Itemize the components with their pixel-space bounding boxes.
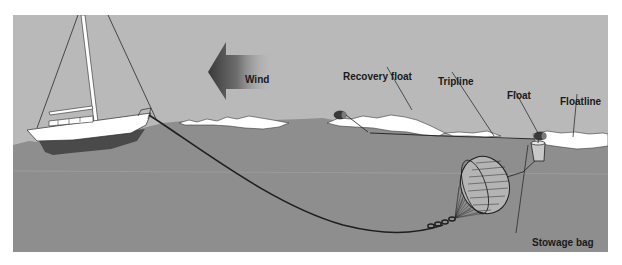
diagram-illustration [13,15,608,252]
floatline-label: Floatline [560,96,601,107]
wind-label: Wind [245,74,269,85]
tripline-label: Tripline [438,76,474,87]
float [534,132,547,140]
stowage-bag [531,141,545,161]
stowage-bag-label: Stowage bag [532,237,594,248]
diagram-frame: Wind Recovery float Tripline Float Float… [13,15,608,252]
float-label: Float [507,90,531,101]
recovery-float-label: Recovery float [343,71,412,82]
